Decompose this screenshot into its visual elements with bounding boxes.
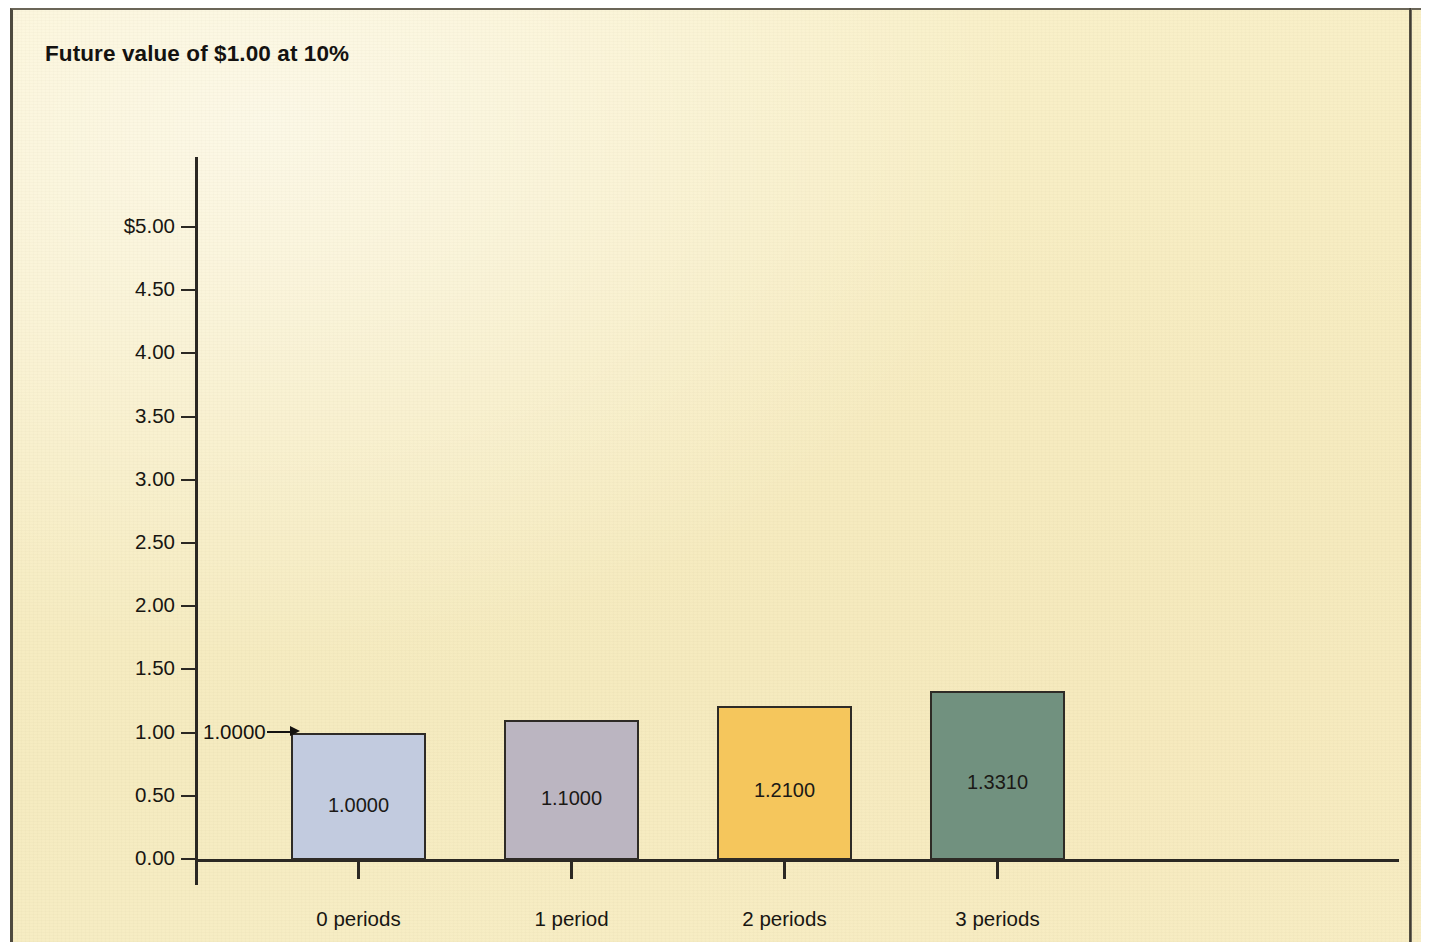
value-callout-label: 1.0000 (203, 720, 266, 744)
y-axis-tick-label: 3.00 (65, 467, 175, 491)
y-axis-line (195, 157, 198, 885)
y-axis-tick (181, 226, 196, 228)
bar[interactable]: 1.1000 (504, 720, 639, 861)
x-axis-tick (783, 861, 785, 879)
y-axis-tick-label: 2.50 (65, 530, 175, 554)
panel-right-rule (1409, 8, 1412, 942)
x-axis-tick (357, 861, 359, 879)
bar-value-label: 1.3310 (932, 771, 1063, 794)
plot-area: 0.000.501.001.502.002.503.003.504.004.50… (13, 10, 1424, 944)
y-axis-tick-label: 1.50 (65, 656, 175, 680)
y-axis-tick-label: 3.50 (65, 404, 175, 428)
x-axis-category-label: 2 periods (675, 907, 895, 931)
x-axis-category-label: 0 periods (249, 907, 469, 931)
y-axis-tick-label: 0.00 (65, 846, 175, 870)
x-axis-tick (996, 861, 998, 879)
bar[interactable]: 1.2100 (717, 706, 852, 860)
y-axis-tick-label: 1.00 (65, 720, 175, 744)
chart-panel: Future value of $1.00 at 10% 0.000.501.0… (10, 8, 1421, 942)
bar-value-label: 1.2100 (719, 779, 850, 802)
y-axis-tick-label: 4.00 (65, 340, 175, 364)
y-axis-tick (181, 289, 196, 291)
y-axis-tick (181, 795, 196, 797)
y-axis-tick (181, 605, 196, 607)
bar-value-label: 1.0000 (293, 794, 424, 817)
y-axis-tick-label: $5.00 (65, 214, 175, 238)
figure-canvas: Future value of $1.00 at 10% 0.000.501.0… (0, 0, 1435, 950)
bar[interactable]: 1.3310 (930, 691, 1065, 861)
right-arrow-icon (267, 726, 301, 738)
x-axis-category-label: 1 period (462, 907, 682, 931)
y-axis-tick (181, 732, 196, 734)
x-axis-tick (570, 861, 572, 879)
y-axis-tick (181, 479, 196, 481)
value-callout: 1.0000 (203, 720, 301, 744)
bar[interactable]: 1.0000 (291, 733, 426, 861)
x-axis-category-label: 3 periods (888, 907, 1108, 931)
y-axis-tick (181, 668, 196, 670)
y-axis-tick-label: 0.50 (65, 783, 175, 807)
y-axis-tick (181, 416, 196, 418)
bar-value-label: 1.1000 (506, 787, 637, 810)
y-axis-tick-label: 4.50 (65, 277, 175, 301)
y-axis-tick (181, 542, 196, 544)
y-axis-tick-label: 2.00 (65, 593, 175, 617)
y-axis-tick (181, 352, 196, 354)
y-axis-tick (181, 858, 196, 860)
